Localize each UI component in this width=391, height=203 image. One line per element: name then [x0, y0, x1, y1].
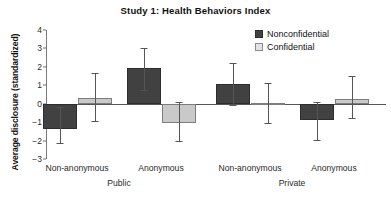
error-cap-upper	[264, 83, 271, 84]
error-cap-lower	[175, 141, 182, 142]
y-tick-label: 4	[37, 25, 42, 35]
error-cap-upper	[229, 63, 236, 64]
y-tick-label: 1	[37, 80, 42, 90]
x-tick-label-0: Non-anonymous	[45, 163, 108, 173]
y-tick-mark	[43, 159, 46, 160]
x-tick-label-2: Non-anonymous	[218, 163, 281, 173]
error-bar-confidential-0	[95, 73, 96, 121]
y-axis-label: Average disclosure (standardized)	[10, 17, 20, 187]
error-bar-nonconfidential-0	[60, 107, 61, 143]
chart-title: Study 1: Health Behaviors Index	[0, 5, 391, 16]
y-tick-mark	[43, 30, 46, 31]
error-cap-lower	[313, 140, 320, 141]
error-cap-lower	[56, 143, 63, 144]
error-cap-lower	[140, 90, 147, 91]
y-tick-label: −1	[32, 117, 42, 127]
error-bar-confidential-2	[268, 83, 269, 123]
error-cap-lower	[264, 123, 271, 124]
error-cap-upper	[175, 102, 182, 103]
panel-label-private: Private	[279, 178, 306, 188]
y-tick-mark	[43, 85, 46, 86]
zero-baseline	[46, 104, 386, 105]
error-cap-lower	[229, 105, 236, 106]
x-tick-label-1: Anonymous	[138, 163, 183, 173]
error-cap-upper	[313, 102, 320, 103]
error-cap-upper	[56, 107, 63, 108]
error-cap-upper	[91, 73, 98, 74]
y-tick-mark	[43, 140, 46, 141]
error-cap-lower	[348, 118, 355, 119]
panel-label-public: Public	[107, 178, 130, 188]
y-tick-mark	[43, 66, 46, 67]
y-tick-label: 3	[37, 43, 42, 53]
plot-area: 43210−1−2−3 Non-anonymousAnonymousNon-an…	[46, 30, 386, 159]
y-tick-label: 2	[37, 62, 42, 72]
chart-figure: Study 1: Health Behaviors Index Average …	[0, 0, 391, 203]
y-axis-spine	[46, 30, 47, 159]
y-tick-label: −2	[32, 136, 42, 146]
error-bar-nonconfidential-1	[144, 48, 145, 91]
error-bar-confidential-1	[179, 102, 180, 142]
y-tick-label: −3	[32, 154, 42, 164]
x-tick-label-3: Anonymous	[311, 163, 356, 173]
error-bar-nonconfidential-3	[317, 102, 318, 140]
y-tick-mark	[43, 48, 46, 49]
error-bar-nonconfidential-2	[233, 63, 234, 104]
y-tick-label: 0	[37, 99, 42, 109]
error-cap-upper	[140, 48, 147, 49]
error-cap-upper	[348, 76, 355, 77]
error-cap-lower	[91, 121, 98, 122]
error-bar-confidential-3	[352, 76, 353, 117]
